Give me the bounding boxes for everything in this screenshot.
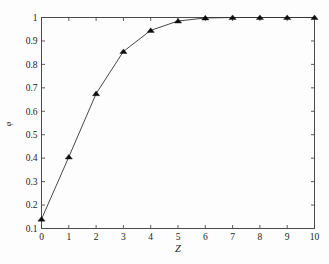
x-tick-label: 8: [258, 232, 263, 242]
y-tick-label: 0.1: [26, 224, 38, 234]
y-tick-label: 0.6: [26, 107, 38, 117]
x-axis-ticks: [42, 18, 315, 229]
data-marker-group: [38, 15, 318, 221]
y-tick-label: 0.7: [26, 83, 38, 93]
y-axis-tick-labels: 0.10.20.30.40.50.60.70.80.91: [26, 13, 38, 234]
data-point-marker: [38, 217, 45, 222]
data-point-marker: [147, 28, 154, 33]
y-tick-label: 0.8: [26, 60, 38, 70]
data-point-marker: [93, 91, 100, 96]
y-tick-label: 0.2: [26, 200, 38, 210]
x-tick-label: 1: [66, 232, 71, 242]
figure-canvas: 012345678910 0.10.20.30.40.50.60.70.80.9…: [0, 0, 329, 264]
y-tick-label: 0.5: [26, 130, 38, 140]
y-axis-title: φ: [4, 121, 13, 126]
data-series-group: [42, 18, 315, 220]
y-tick-label: 0.9: [26, 36, 38, 46]
x-tick-label: 6: [203, 232, 208, 242]
x-tick-label: 7: [230, 232, 235, 242]
x-tick-label: 3: [121, 232, 126, 242]
x-axis-tick-labels: 012345678910: [39, 232, 319, 242]
y-axis-ticks: [42, 18, 315, 229]
y-tick-label: 1: [33, 13, 38, 23]
data-line: [42, 18, 315, 220]
y-tick-label: 0.4: [26, 153, 38, 163]
y-tick-label: 0.3: [26, 177, 38, 187]
x-tick-label: 5: [176, 232, 181, 242]
x-tick-label: 9: [285, 232, 290, 242]
chart-plot: 012345678910 0.10.20.30.40.50.60.70.80.9…: [0, 0, 329, 264]
plot-frame: [42, 18, 315, 229]
x-tick-label: 4: [148, 232, 153, 242]
x-tick-label: 0: [39, 232, 44, 242]
x-axis-title: Z: [175, 243, 181, 254]
data-point-marker: [65, 154, 72, 159]
x-tick-label: 2: [94, 232, 99, 242]
x-tick-label: 10: [310, 232, 320, 242]
